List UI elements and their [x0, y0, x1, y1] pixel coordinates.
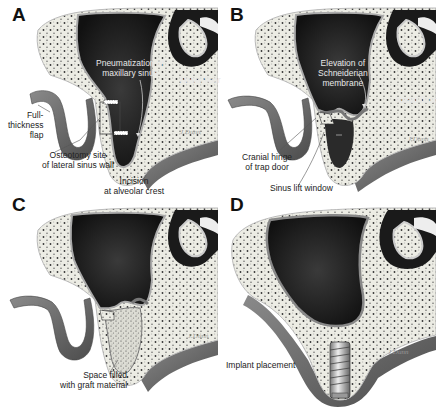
graft-label: Space filled with graft material — [60, 370, 127, 390]
panel-c: C Space filled with graft material J.Dun… — [0, 200, 218, 407]
panel-d-label: D — [230, 194, 244, 216]
osteotomy-label: Osteotomy site of lateral sinus wall — [42, 150, 114, 170]
artist-signature: J.Dunn — [180, 128, 200, 136]
osteotomy-line2: of lateral sinus wall — [42, 160, 114, 170]
flap-label: Full- thickness flap — [8, 110, 43, 140]
pneumatization-label: Pneumatization of maxillary sinus — [96, 58, 164, 78]
implant-icon — [330, 342, 350, 398]
flap-line2: thickness — [8, 120, 43, 130]
artist-signature: J.Dunn — [408, 135, 428, 143]
elevation-line1: Elevation of — [318, 58, 368, 68]
incision-label: Incision at alveolar crest — [104, 176, 164, 196]
hinge-label: Cranial hinge of trap door — [242, 152, 292, 172]
implant-placement-label: Implant placement — [226, 360, 295, 370]
hinge-line1: Cranial hinge — [242, 152, 292, 162]
elevation-line2: Schneiderian — [318, 68, 368, 78]
graft-line1: Space filled — [60, 370, 127, 380]
incision-line1: Incision — [104, 176, 164, 186]
artist-signature: J.Dunn — [388, 348, 408, 356]
osteotomy-line1: Osteotomy site — [42, 150, 114, 160]
hinge-line2: of trap door — [242, 162, 292, 172]
nasal-floor-label-b: Nasal floor — [396, 95, 437, 105]
panel-c-label: C — [12, 194, 26, 216]
pneumatization-line1: Pneumatization of — [96, 58, 164, 68]
graft-line2: with graft material — [60, 380, 127, 390]
panel-d-illustration — [218, 200, 436, 407]
panel-a-illustration — [0, 0, 218, 200]
nasal-floor-label-a: Nasal floor — [180, 75, 221, 85]
incision-line2: at alveolar crest — [104, 186, 164, 196]
elevation-line3: membrane — [318, 78, 368, 88]
elevation-label: Elevation of Schneiderian membrane — [318, 58, 368, 88]
panel-d: D Implant placement J.Dunn — [218, 200, 436, 407]
panel-b-label: B — [230, 4, 244, 26]
panel-a: A Pneumatization of maxillary sinus Nasa… — [0, 0, 218, 200]
flap-line1: Full- — [8, 110, 43, 120]
panel-a-label: A — [12, 4, 26, 26]
pneumatization-line2: maxillary sinus — [96, 68, 164, 78]
sinus-lift-window-label: Sinus lift window — [270, 183, 333, 193]
artist-signature: J.Dunn — [188, 332, 208, 340]
panel-b: B Elevation of Schneiderian membrane Nas… — [218, 0, 436, 200]
flap-line3: flap — [8, 130, 43, 140]
